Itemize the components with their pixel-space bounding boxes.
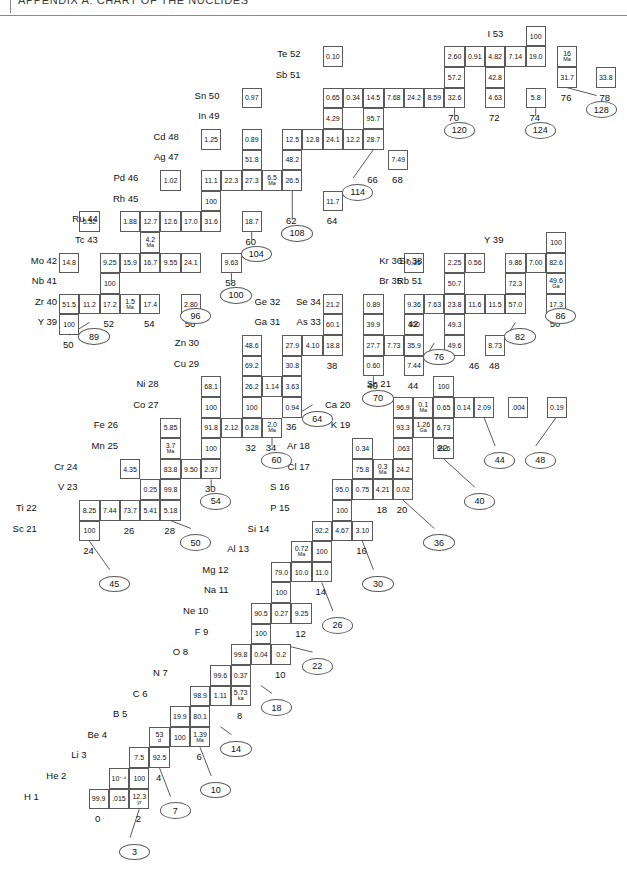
isotope-cell[interactable]: 99.8 — [231, 644, 251, 665]
isotope-cell[interactable]: 22.3 — [221, 170, 241, 191]
isotope-cell[interactable]: 72.3 — [505, 273, 525, 294]
isotope-cell[interactable]: 2.37 — [201, 459, 221, 480]
isotope-cell[interactable]: 16.7 — [140, 253, 160, 274]
isotope-cell[interactable]: 1.26Ga — [413, 418, 433, 439]
isotope-cell[interactable]: 100 — [201, 191, 221, 212]
mass-number-badge[interactable]: 26 — [322, 617, 353, 634]
isotope-cell[interactable]: 51.8 — [242, 150, 262, 171]
isotope-cell[interactable]: 4.2Ma — [140, 232, 160, 253]
isotope-cell[interactable]: 82.6 — [546, 253, 566, 274]
isotope-cell[interactable]: 0.02 — [393, 479, 413, 500]
mass-number-badge[interactable]: 89 — [78, 328, 109, 345]
isotope-cell[interactable]: 24.2 — [404, 88, 424, 109]
isotope-cell[interactable]: 1.39Ma — [190, 727, 210, 748]
isotope-cell[interactable]: 0.97 — [242, 88, 262, 109]
mass-number-badge[interactable]: 50 — [180, 534, 211, 551]
isotope-cell[interactable]: 10⁻⁴ — [109, 768, 129, 789]
mass-number-badge[interactable]: 128 — [586, 101, 617, 118]
isotope-cell[interactable]: 1.5Ma — [120, 294, 140, 315]
isotope-cell[interactable]: 30.8 — [282, 356, 302, 377]
isotope-cell[interactable]: 24.2 — [393, 459, 413, 480]
isotope-cell[interactable]: 0.91 — [465, 46, 485, 67]
isotope-cell[interactable]: 3.10 — [352, 521, 372, 542]
isotope-cell[interactable]: 17.4 — [140, 294, 160, 315]
isotope-cell[interactable]: 7.63 — [424, 294, 444, 315]
mass-number-badge[interactable]: 70 — [362, 390, 393, 407]
isotope-cell[interactable]: 6.73 — [433, 418, 453, 439]
isotope-cell[interactable]: 11.0 — [312, 562, 332, 583]
isotope-cell[interactable]: 28.7 — [363, 129, 383, 150]
isotope-cell[interactable]: 60.1 — [323, 314, 343, 335]
isotope-cell[interactable]: 1.88 — [120, 211, 140, 232]
isotope-cell[interactable]: 0.3Ma — [373, 459, 393, 480]
isotope-cell[interactable]: 42.8 — [485, 67, 505, 88]
isotope-cell[interactable]: 0.37 — [231, 665, 251, 686]
mass-number-badge[interactable]: 108 — [281, 225, 312, 242]
isotope-cell[interactable]: 69.2 — [242, 356, 262, 377]
mass-number-badge[interactable]: 40 — [464, 493, 495, 510]
isotope-cell[interactable]: 39.9 — [363, 314, 383, 335]
isotope-cell[interactable]: 1.25 — [201, 129, 221, 150]
isotope-cell[interactable]: 17.2 — [100, 294, 120, 315]
isotope-cell[interactable]: 0.25 — [140, 479, 160, 500]
isotope-cell[interactable]: 5.18 — [160, 500, 180, 521]
isotope-cell[interactable]: 27.3 — [242, 170, 262, 191]
isotope-cell[interactable]: 1.14 — [262, 376, 282, 397]
isotope-cell[interactable]: 73.7 — [120, 500, 140, 521]
isotope-cell[interactable]: 7.14 — [505, 46, 525, 67]
isotope-cell[interactable]: 100 — [526, 26, 546, 47]
isotope-cell[interactable]: 32.6 — [444, 88, 464, 109]
isotope-cell[interactable]: 4.63 — [485, 88, 505, 109]
isotope-cell[interactable]: 0.89 — [242, 129, 262, 150]
isotope-cell[interactable]: 6.5Ma — [262, 170, 282, 191]
isotope-cell[interactable]: 49.3 — [444, 314, 464, 335]
isotope-cell[interactable]: 0.19 — [547, 397, 567, 418]
mass-number-badge[interactable]: 76 — [423, 349, 454, 366]
isotope-cell[interactable]: 0.04 — [251, 644, 271, 665]
mass-number-badge[interactable]: 45 — [99, 576, 130, 593]
isotope-cell[interactable]: 7.49 — [388, 150, 408, 171]
isotope-cell[interactable]: 50.7 — [444, 273, 464, 294]
isotope-cell[interactable]: 100 — [201, 438, 221, 459]
isotope-cell[interactable]: 98.9 — [190, 686, 210, 707]
mass-number-badge[interactable]: 14 — [220, 741, 251, 758]
isotope-cell[interactable]: 4.29 — [323, 108, 343, 129]
isotope-cell[interactable]: 9.63 — [221, 253, 241, 274]
isotope-cell[interactable]: 0.27 — [271, 603, 291, 624]
mass-number-badge[interactable]: 120 — [444, 122, 475, 139]
isotope-cell[interactable]: 100 — [79, 521, 99, 542]
isotope-cell[interactable]: 24.1 — [181, 253, 201, 274]
isotope-cell[interactable]: 2.60 — [444, 46, 464, 67]
isotope-cell[interactable]: 4.10 — [302, 335, 322, 356]
isotope-cell[interactable]: 0.1Ma — [413, 397, 433, 418]
isotope-cell[interactable]: 11.1 — [201, 170, 221, 191]
isotope-cell[interactable]: 100 — [312, 541, 332, 562]
isotope-cell[interactable]: 48.2 — [282, 150, 302, 171]
isotope-cell[interactable]: 100 — [100, 273, 120, 294]
isotope-cell[interactable]: 0.2 — [271, 644, 291, 665]
isotope-cell[interactable]: 93.3 — [393, 418, 413, 439]
isotope-cell[interactable]: 0.65 — [433, 397, 453, 418]
isotope-cell[interactable]: 100 — [433, 376, 453, 397]
isotope-cell[interactable]: 9.25 — [100, 253, 120, 274]
isotope-cell[interactable]: 57.2 — [444, 67, 464, 88]
isotope-cell[interactable]: 14.5 — [363, 88, 383, 109]
mass-number-badge[interactable]: 30 — [362, 576, 393, 593]
isotope-cell[interactable]: 12.2 — [343, 129, 363, 150]
isotope-cell[interactable]: 15.9 — [120, 253, 140, 274]
isotope-cell[interactable]: 100 — [546, 232, 566, 253]
mass-number-badge[interactable]: 82 — [504, 328, 535, 345]
mass-number-badge[interactable]: 18 — [261, 699, 292, 716]
isotope-cell[interactable]: 11.7 — [323, 191, 343, 212]
isotope-cell[interactable]: 49.6Ga — [546, 273, 566, 294]
isotope-cell[interactable]: 48.6 — [242, 335, 262, 356]
isotope-cell[interactable]: 12.8 — [302, 129, 322, 150]
isotope-cell[interactable]: 19.9 — [170, 706, 190, 727]
isotope-cell[interactable]: 0.34 — [352, 438, 372, 459]
isotope-cell[interactable]: 7.5 — [129, 747, 149, 768]
mass-number-badge[interactable]: 124 — [525, 122, 556, 139]
isotope-cell[interactable]: 0.60 — [363, 356, 383, 377]
isotope-cell[interactable]: 21.2 — [323, 294, 343, 315]
isotope-cell[interactable]: 31.7 — [557, 67, 577, 88]
mass-number-badge[interactable]: 96 — [180, 308, 211, 325]
